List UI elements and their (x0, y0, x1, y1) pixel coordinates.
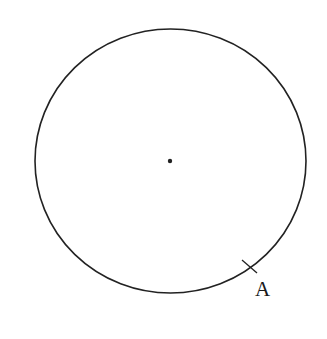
circle-diagram (0, 0, 327, 339)
point-a-label: A (255, 279, 270, 300)
center-point (168, 159, 172, 163)
